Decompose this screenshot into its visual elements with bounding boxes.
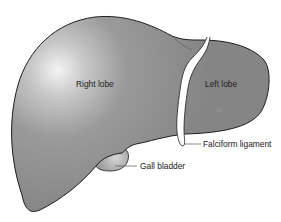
left-lobe-label: Left lobe [205, 79, 237, 89]
falciform-ligament-label: Falciform ligament [203, 139, 272, 149]
liver-outline [12, 16, 269, 211]
left-lobe-mark: Ж [216, 107, 222, 113]
gall-bladder-label: Gall bladder [140, 161, 185, 171]
liver-diagram: Ж Right lobe Left lobe Falciform ligamen… [0, 0, 281, 222]
right-lobe-label: Right lobe [76, 79, 114, 89]
